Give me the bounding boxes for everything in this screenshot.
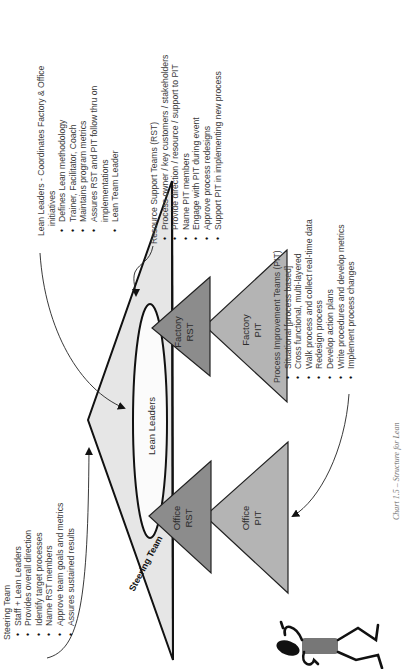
list-item: Cross functional, multi-layered	[293, 219, 304, 369]
list-item: Staff + Lean Leaders	[13, 503, 24, 626]
list-item: Process owner / key customers / stakehol…	[160, 55, 171, 230]
pit-note-title: Process Improvement Teams (PIT)	[272, 219, 283, 383]
factory-rst-label-1: Factory	[172, 316, 183, 348]
lean-leaders-note: Lean Leaders - Coordinates Factory & Off…	[36, 66, 121, 236]
rst-note-title: Resource Support Teams (RST)	[149, 55, 160, 244]
list-item: Identify target processes	[34, 503, 45, 626]
list-item: Redesign process	[314, 219, 325, 369]
steering-base-line	[172, 181, 173, 660]
steering-note-title: Steering Team	[2, 503, 13, 640]
lean-leaders-label: Lean Leaders	[146, 397, 157, 455]
factory-pit-label-2: PIT	[252, 322, 263, 337]
list-item-cont-text: implementations	[100, 159, 110, 222]
office-rst-label-1: Office	[171, 506, 182, 531]
list-item: Name RST members	[44, 503, 55, 626]
pit-arrow	[293, 394, 349, 516]
figure-caption: Chart 1.5 – Structure for Lean	[392, 423, 401, 520]
stick-figure-icon	[274, 622, 382, 668]
list-item: Approve process redesigns	[202, 55, 213, 230]
office-rst-label-2: RST	[183, 508, 194, 527]
lean-leaders-note-title: Lean Leaders - Coordinates Factory & Off…	[36, 66, 47, 236]
list-item: Engage with PIT during event	[191, 55, 202, 230]
list-item: Trainer, Facilitator, Coach	[68, 66, 79, 222]
list-item: Situational [process based]	[283, 219, 294, 369]
list-item: Walk process and collect real-time data	[304, 219, 315, 369]
list-item-cont: implementations	[100, 66, 111, 222]
list-item: Defines Lean methodology	[57, 66, 68, 222]
lean-leaders-list: Defines Lean methodology Trainer, Facili…	[57, 66, 121, 236]
steering-team-note: Steering Team Staff + Lean Leaders Provi…	[2, 503, 76, 640]
list-item: Provide direction / resource / support t…	[170, 55, 181, 230]
factory-pit-label-1: Factory	[240, 314, 251, 346]
rst-list: Process owner / key customers / stakehol…	[160, 55, 224, 244]
list-item: Assures RST and PIT follow thru on	[89, 66, 100, 222]
list-item: Develop action plans	[325, 219, 336, 369]
list-item: Implement process changes	[346, 219, 357, 369]
list-item: Approve team goals and metrics	[55, 503, 66, 626]
list-item: Name PIT members	[181, 55, 192, 230]
lean-leaders-note-title-cont: initiatives	[47, 66, 58, 236]
rst-note: Resource Support Teams (RST) Process own…	[149, 55, 223, 244]
list-item: Maintains program metrics	[78, 66, 89, 222]
office-pit-label-2: PIT	[252, 510, 263, 525]
list-item: Write procedures and develop metrics	[336, 219, 347, 369]
factory-rst-label-2: RST	[184, 322, 195, 341]
steering-list: Staff + Lean Leaders Provides overall di…	[13, 503, 77, 640]
office-pit-label-1: Office	[240, 506, 251, 531]
list-item: Support PIT in implementing new process	[213, 55, 224, 230]
list-item: Assures sustained results	[66, 503, 77, 626]
pit-note: Process Improvement Teams (PIT) Situatio…	[272, 219, 357, 383]
list-item: Provides overall direction	[23, 503, 34, 626]
list-item: Lean Team Leader	[110, 66, 121, 222]
pit-list: Situational [process based] Cross functi…	[283, 219, 357, 383]
